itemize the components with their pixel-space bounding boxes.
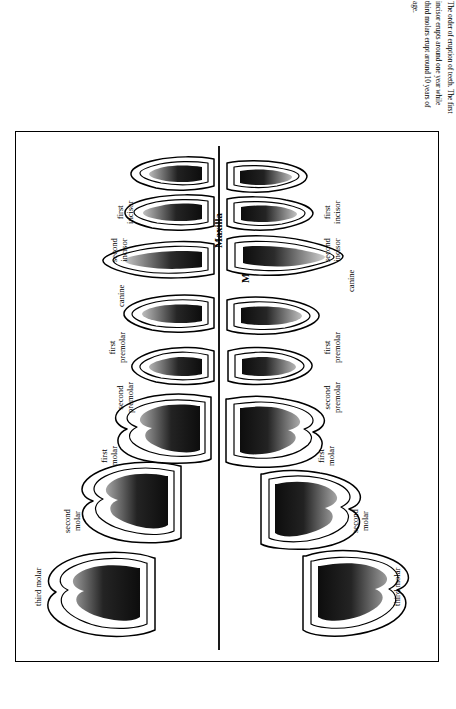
tooth-label-max-second-incisor: second incisor — [109, 238, 130, 262]
tooth-label-max-first-molar: first molar — [99, 446, 120, 466]
label-line: second — [350, 509, 360, 533]
tooth-label-max-first-incisor: first incisor — [115, 201, 136, 224]
label-line: incisor — [332, 201, 342, 224]
tooth-label-max-third-molar: third molar — [33, 568, 43, 606]
tooth-label-man-second-incisor: second incisor — [322, 238, 343, 262]
label-line: molar — [360, 511, 370, 531]
label-line: premolar — [117, 332, 127, 363]
tooth-label-man-third-molar: third molar — [392, 568, 402, 606]
label-line: incisor — [119, 238, 129, 261]
tooth-max-second-premolar — [130, 345, 218, 387]
tooth-max-second-molar — [78, 460, 186, 544]
label-line: incisor — [332, 238, 342, 261]
label-line: first — [322, 341, 332, 355]
tooth-man-first-incisor — [222, 158, 308, 194]
label-line: canine — [346, 270, 356, 292]
label-line: premolar — [125, 382, 135, 413]
label-line: incisor — [125, 201, 135, 224]
tooth-label-man-first-incisor: first incisor — [322, 201, 343, 224]
tooth-label-man-first-premolar: first premolar — [322, 332, 343, 363]
tooth-label-man-canine: canine — [346, 270, 356, 292]
label-line: second — [322, 238, 332, 262]
tooth-label-man-second-premolar: second premolar — [322, 382, 343, 413]
label-line: first — [115, 205, 125, 219]
label-line: third molar — [392, 568, 402, 606]
tooth-max-first-premolar — [122, 292, 218, 334]
label-line: first — [107, 341, 117, 355]
label-line: premolar — [332, 332, 342, 363]
tooth-man-first-premolar — [222, 294, 322, 336]
figure-caption: The order of eruption of teeth. The firs… — [370, 0, 456, 120]
label-line: molar — [109, 446, 119, 466]
label-line: molar — [326, 446, 336, 466]
tooth-man-first-molar — [224, 394, 326, 468]
label-line: third molar — [33, 568, 43, 606]
tooth-label-man-second-molar: second molar — [350, 509, 371, 533]
tooth-label-max-second-molar: second molar — [62, 509, 83, 533]
label-line: premolar — [332, 382, 342, 413]
tooth-label-max-second-premolar: second premolar — [115, 382, 136, 413]
figure-caption-text: The order of eruption of teeth. The firs… — [410, 0, 456, 119]
label-line: first — [316, 449, 326, 463]
tooth-man-second-incisor — [222, 194, 314, 232]
tooth-label-max-first-premolar: first premolar — [107, 332, 128, 363]
label-line: second — [322, 386, 332, 410]
label-line: molar — [72, 511, 82, 531]
label-line: canine — [116, 285, 126, 307]
tooth-man-second-premolar — [222, 345, 314, 387]
label-line: second — [62, 509, 72, 533]
label-line: first — [99, 449, 109, 463]
label-line: second — [109, 238, 119, 262]
tooth-label-max-canine: canine — [116, 285, 126, 307]
tooth-label-man-first-molar: first molar — [316, 446, 337, 466]
label-line: second — [115, 386, 125, 410]
label-line: first — [322, 205, 332, 219]
tooth-max-third-molar — [42, 550, 160, 638]
tooth-max-first-incisor — [130, 154, 218, 192]
tooth-max-second-incisor — [124, 192, 218, 232]
